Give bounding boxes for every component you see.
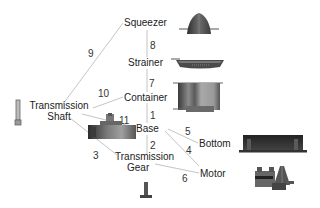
- label-bottom: Bottom: [199, 138, 231, 149]
- relation-number-3: 3: [93, 150, 99, 161]
- relation-number-6: 6: [182, 173, 188, 184]
- edge-5: [168, 129, 198, 143]
- label-squeezer: Squeezer: [124, 17, 167, 28]
- edge-9: [63, 23, 123, 104]
- relation-number-7: 7: [149, 78, 155, 89]
- label-motor: Motor: [200, 168, 226, 179]
- container-part-icon: [172, 80, 224, 115]
- strainer-part-icon: [170, 57, 226, 71]
- label-transmission-shaft: Transmission Shaft: [28, 100, 90, 122]
- relation-number-2: 2: [150, 140, 156, 151]
- label-base: Base: [136, 123, 159, 134]
- base-part-icon: [86, 113, 138, 141]
- relation-number-10: 10: [98, 88, 109, 99]
- relation-number-1: 1: [150, 110, 156, 121]
- squeezer-part-icon: [178, 10, 220, 37]
- relation-number-8: 8: [150, 40, 156, 51]
- bottom-part-icon: [238, 133, 308, 155]
- relation-number-4: 4: [186, 145, 192, 156]
- label-container: Container: [124, 92, 167, 103]
- label-transmission-gear: Transmission Gear: [115, 151, 177, 173]
- relation-number-9: 9: [88, 48, 94, 59]
- relation-number-5: 5: [185, 126, 191, 137]
- bolt-part-icon: [139, 181, 153, 200]
- motor-part-icon: [252, 163, 296, 193]
- label-strainer: Strainer: [128, 57, 163, 68]
- transmission-shaft-part-icon: [13, 99, 23, 127]
